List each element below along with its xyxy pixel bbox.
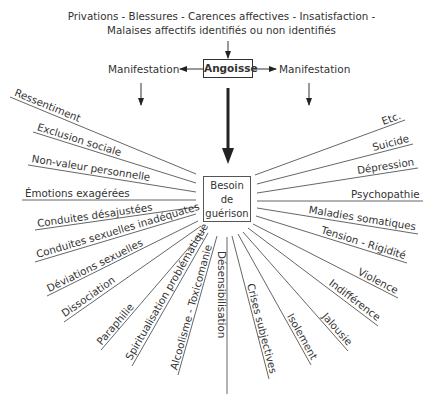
header-line-2: Malaises affectifs identifiés ou non ide… bbox=[0, 23, 443, 37]
header-line-1: Privations - Blessures - Carences affect… bbox=[0, 9, 443, 23]
ray-label: Désensibilisation bbox=[216, 251, 228, 338]
center-box-line-1: Besoin bbox=[204, 179, 250, 193]
manifestation-right: Manifestation bbox=[279, 63, 350, 75]
manifestation-left: Manifestation bbox=[108, 63, 179, 75]
ray-label: Émotions exagérées bbox=[25, 187, 130, 199]
besoin-de-guerison-box: Besoin de guérison bbox=[203, 176, 251, 222]
center-box-line-2: de bbox=[204, 193, 250, 207]
ray-label: Psychopathie bbox=[351, 188, 420, 200]
thick-arrowhead-icon bbox=[222, 148, 234, 164]
angoisse-box: Angoisse bbox=[203, 59, 253, 78]
center-box-line-3: guérison bbox=[204, 207, 250, 221]
